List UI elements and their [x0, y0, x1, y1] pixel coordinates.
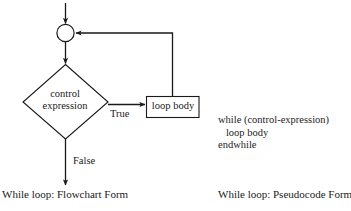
true-edge-label: True [110, 108, 129, 120]
decision-label: controlexpression [32, 88, 98, 112]
pseudocode-line-1: while (control-expression) [218, 114, 329, 127]
pseudocode-block: while (control-expression) loop bodyendw… [218, 114, 329, 152]
figure-while-loop-forms: controlexpression loop body True False W… [0, 0, 351, 211]
decision-label-line1: control [50, 88, 80, 99]
false-edge-label: False [73, 155, 95, 167]
decision-label-line2: expression [32, 100, 98, 112]
connector-node-circle [57, 24, 74, 41]
loop-body-label: loop body [146, 100, 200, 112]
pseudocode-line-3: endwhile [218, 139, 329, 152]
flowchart-caption: While loop: Flowchart Form [2, 188, 128, 200]
pseudocode-caption: While loop: Pseudocode Form [218, 188, 351, 200]
pseudocode-line-2: loop body [218, 127, 329, 140]
